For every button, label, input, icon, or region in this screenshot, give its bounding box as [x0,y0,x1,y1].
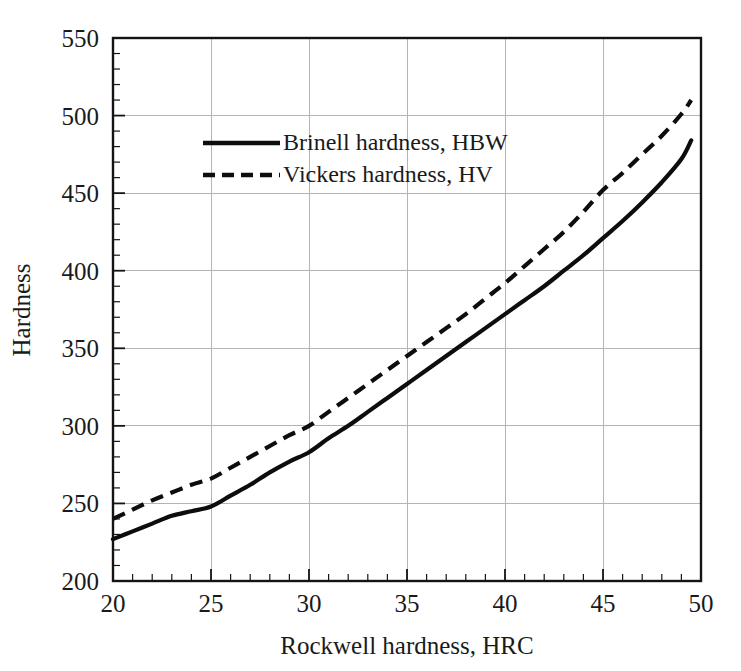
y-axis-title: Hardness [8,263,35,356]
chart-background [0,0,741,671]
y-tick-label: 300 [62,413,100,440]
hardness-conversion-chart: 20253035404550 200250300350400450500550 … [0,0,741,671]
x-tick-label: 30 [297,590,322,617]
y-tick-label: 550 [62,25,100,52]
legend-label-brinell: Brinell hardness, HBW [283,129,508,155]
x-tick-label: 45 [591,590,616,617]
y-tick-label: 350 [62,335,100,362]
y-tick-label: 500 [62,103,100,130]
x-tick-label: 25 [199,590,224,617]
y-tick-label: 450 [62,180,100,207]
chart-canvas: 20253035404550 200250300350400450500550 … [0,0,741,671]
x-tick-label: 20 [101,590,126,617]
y-tick-label: 250 [62,490,100,517]
x-tick-label: 50 [689,590,714,617]
legend-label-vickers: Vickers hardness, HV [283,161,494,187]
y-tick-label: 200 [62,568,100,595]
x-tick-label: 40 [493,590,518,617]
y-tick-label: 400 [62,258,100,285]
x-axis-title: Rockwell hardness, HRC [280,632,533,659]
x-tick-label: 35 [395,590,420,617]
